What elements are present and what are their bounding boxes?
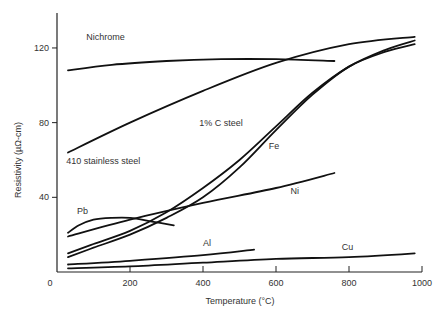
curve-410-stainless-steel bbox=[68, 37, 415, 153]
x-axis-title: Temperature (°C) bbox=[205, 296, 274, 306]
x-tick-label: 800 bbox=[341, 278, 356, 288]
x-tick-label: 400 bbox=[195, 278, 210, 288]
x-tick-label: 600 bbox=[268, 278, 283, 288]
y-axis-title: Resistivity (µΩ-cm) bbox=[13, 122, 23, 198]
label-nichrome: Nichrome bbox=[86, 32, 125, 42]
resistivity-chart: 020040060080010004080120 Nichrome410 sta… bbox=[0, 0, 448, 322]
x-tick-label: 0 bbox=[47, 278, 52, 288]
label-cu: Cu bbox=[342, 242, 354, 252]
curve-nichrome bbox=[68, 59, 334, 70]
y-tick-label: 80 bbox=[39, 118, 49, 128]
label-al: Al bbox=[203, 238, 211, 248]
curves bbox=[68, 37, 415, 268]
curve-ni bbox=[68, 173, 334, 237]
label-fe: Fe bbox=[269, 141, 280, 151]
label-ni: Ni bbox=[291, 186, 300, 196]
label-410-stainless-steel: 410 stainless steel bbox=[66, 156, 140, 166]
y-tick-label: 120 bbox=[34, 43, 49, 53]
label-1-c-steel: 1% C steel bbox=[199, 118, 243, 128]
x-tick-label: 1000 bbox=[412, 278, 432, 288]
label-pb: Pb bbox=[77, 206, 88, 216]
chart-canvas: 020040060080010004080120 Nichrome410 sta… bbox=[0, 0, 448, 322]
x-tick-label: 200 bbox=[122, 278, 137, 288]
curve-pb bbox=[68, 217, 174, 232]
y-tick-label: 40 bbox=[39, 192, 49, 202]
